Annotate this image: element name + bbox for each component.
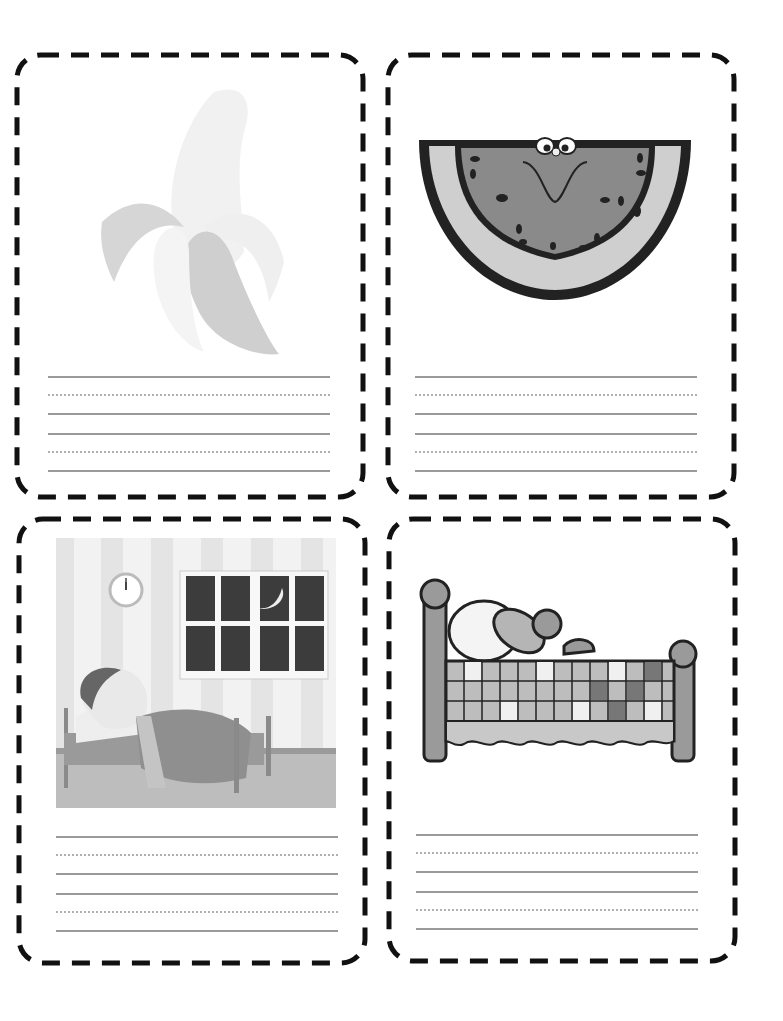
writing-lines[interactable] — [416, 834, 698, 930]
card-banana — [14, 52, 366, 500]
card-bed — [386, 516, 738, 964]
quilt-bed-icon — [414, 576, 699, 771]
writing-lines[interactable] — [415, 376, 697, 472]
card-bedtime — [16, 516, 368, 966]
card-watermelon — [385, 52, 737, 500]
boy-in-bed-icon — [56, 538, 336, 808]
watermelon-icon — [415, 134, 695, 304]
writing-lines[interactable] — [48, 376, 330, 472]
banana-icon — [94, 82, 294, 362]
writing-lines[interactable] — [56, 836, 338, 932]
